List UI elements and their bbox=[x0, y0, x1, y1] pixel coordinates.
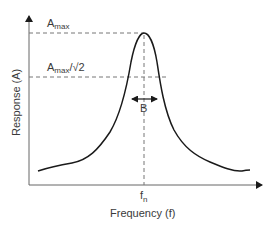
half-power-label: Amax/√2 bbox=[47, 61, 85, 75]
amax-label: Amax bbox=[47, 17, 69, 31]
resonance-diagram: Amax Amax/√2 B fn Frequency (f) Response… bbox=[0, 0, 272, 230]
bandwidth-label: B bbox=[140, 102, 147, 114]
natural-frequency-label: fn bbox=[140, 189, 148, 204]
x-axis-label: Frequency (f) bbox=[110, 207, 175, 219]
y-axis-label: Response (A) bbox=[10, 69, 22, 136]
